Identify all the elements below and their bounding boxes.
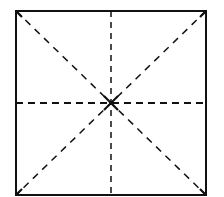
diagram-canvas — [0, 0, 224, 197]
